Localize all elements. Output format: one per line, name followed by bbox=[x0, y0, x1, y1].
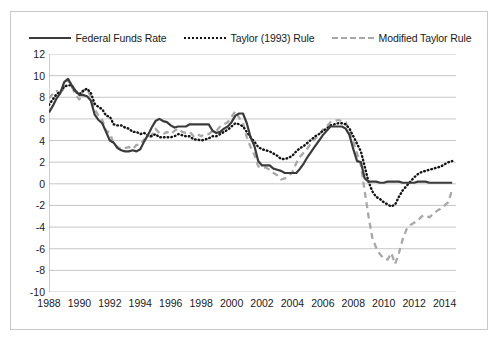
x-axis-tick: 1998 bbox=[189, 297, 212, 309]
legend-item-federal-funds-rate[interactable]: Federal Funds Rate bbox=[29, 32, 167, 44]
y-axis-tick: -6 bbox=[36, 243, 45, 255]
legend-label-taylor-1993-rule: Taylor (1993) Rule bbox=[231, 32, 315, 44]
y-axis-tick-labels: 121086420-2-4-6-8-10 bbox=[15, 54, 45, 292]
y-axis-tick: 0 bbox=[39, 178, 45, 190]
chart-canvas bbox=[49, 54, 456, 292]
legend-item-taylor-1993-rule[interactable]: Taylor (1993) Rule bbox=[184, 32, 315, 44]
chart-legend: Federal Funds Rate Taylor (1993) Rule Mo… bbox=[11, 29, 489, 47]
dashed-line-icon bbox=[332, 37, 374, 39]
x-axis-tick: 2008 bbox=[342, 297, 365, 309]
y-axis-tick: 8 bbox=[39, 91, 45, 103]
x-axis-tick: 2004 bbox=[281, 297, 304, 309]
y-axis-tick: 6 bbox=[39, 113, 45, 125]
y-axis-tick: -8 bbox=[36, 264, 45, 276]
x-axis-tick: 1996 bbox=[159, 297, 182, 309]
y-axis-tick: -4 bbox=[36, 221, 45, 233]
y-axis-tick: 12 bbox=[33, 48, 45, 60]
x-axis-tick: 1992 bbox=[98, 297, 121, 309]
x-axis-tick: 2002 bbox=[250, 297, 273, 309]
legend-item-modified-taylor-rule[interactable]: Modified Taylor Rule bbox=[332, 32, 472, 44]
series-layer bbox=[49, 79, 452, 264]
solid-line-icon bbox=[29, 37, 71, 39]
legend-label-modified-taylor-rule: Modified Taylor Rule bbox=[379, 32, 472, 44]
y-axis-tick: -2 bbox=[36, 199, 45, 211]
x-axis-tick: 1994 bbox=[129, 297, 152, 309]
y-axis-tick: 2 bbox=[39, 156, 45, 168]
plot-area: 121086420-2-4-6-8-10 1988199019921994199… bbox=[49, 54, 456, 292]
x-axis-tick: 1988 bbox=[37, 297, 60, 309]
x-axis-tick: 2012 bbox=[402, 297, 425, 309]
y-axis-tick: 10 bbox=[33, 70, 45, 82]
legend-label-federal-funds-rate: Federal Funds Rate bbox=[76, 32, 167, 44]
x-axis-tick: 1990 bbox=[68, 297, 91, 309]
x-axis-tick-labels: 1988199019921994199619982000200220042006… bbox=[49, 292, 456, 314]
x-axis-tick: 2000 bbox=[220, 297, 243, 309]
series-line-federal-funds-rate bbox=[49, 79, 452, 183]
chart-figure: Federal Funds Rate Taylor (1993) Rule Mo… bbox=[10, 11, 488, 330]
series-line-modified-taylor-rule bbox=[49, 80, 452, 264]
x-axis-tick: 2006 bbox=[311, 297, 334, 309]
dotted-line-icon bbox=[184, 37, 226, 39]
x-axis-tick: 2014 bbox=[433, 297, 456, 309]
gridlines bbox=[49, 54, 456, 292]
x-axis-tick: 2010 bbox=[372, 297, 395, 309]
y-axis-tick: 4 bbox=[39, 135, 45, 147]
